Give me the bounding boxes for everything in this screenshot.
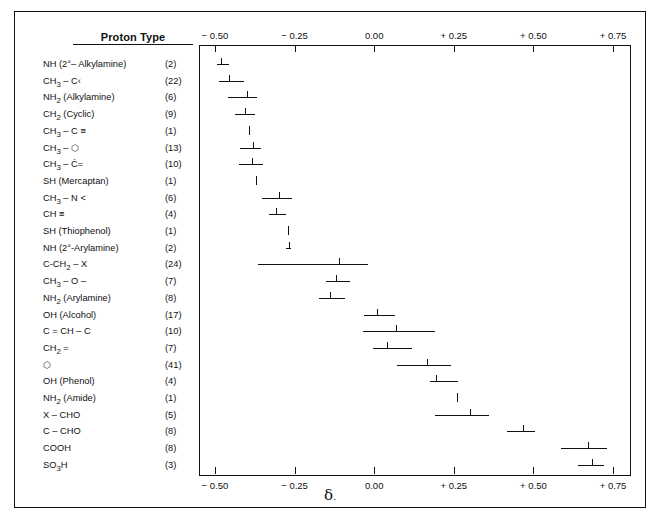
range-bar [364, 315, 395, 316]
range-bar [578, 465, 603, 466]
center-tick [470, 409, 471, 416]
center-tick [276, 208, 277, 215]
chart-inner: Proton Type − 0.50− 0.250.00+ 0.25+ 0.50… [15, 12, 645, 507]
axis-tick-top [295, 45, 296, 52]
center-tick [249, 126, 250, 135]
center-tick [588, 442, 589, 449]
range-bar [326, 281, 350, 282]
chart-frame: Proton Type − 0.50− 0.250.00+ 0.25+ 0.50… [14, 11, 646, 508]
axis-tick-label-top: 0.00 [365, 30, 384, 41]
chart-page: Proton Type − 0.50− 0.250.00+ 0.25+ 0.50… [0, 0, 658, 517]
range-bar [435, 415, 489, 416]
center-tick [336, 275, 337, 282]
center-tick [457, 393, 458, 402]
axis-tick-label-top: + 0.75 [600, 30, 627, 41]
delta-suffix: . [333, 491, 336, 502]
range-bar [319, 298, 344, 299]
center-tick [221, 58, 222, 65]
page-title: Proton Type [73, 31, 193, 45]
range-bar [217, 64, 230, 65]
center-tick [245, 108, 246, 115]
axis-tick-top [613, 45, 614, 52]
center-tick [339, 258, 340, 265]
axis-tick-top [374, 45, 375, 52]
axis-tick-top [533, 45, 534, 52]
range-bar [258, 264, 369, 265]
range-bar [430, 381, 458, 382]
delta-symbol: δ [324, 486, 333, 504]
axis-tick-label-top: + 0.25 [440, 30, 467, 41]
center-tick [253, 142, 254, 149]
range-bar [269, 214, 286, 215]
center-tick [289, 242, 290, 249]
center-tick [427, 359, 428, 366]
axis-title: δ. [15, 486, 645, 504]
range-bar [397, 365, 451, 366]
axis-tick-top [454, 45, 455, 52]
center-tick [288, 226, 289, 235]
row-count: (3) [165, 456, 193, 475]
center-tick [256, 176, 257, 185]
center-tick [247, 91, 248, 98]
center-tick [377, 309, 378, 316]
range-bar [507, 431, 535, 432]
axis-tick-label-top: − 0.25 [281, 30, 308, 41]
axis-tick-label-top: + 0.50 [520, 30, 547, 41]
center-tick [330, 292, 331, 299]
center-tick [279, 192, 280, 199]
range-bar [219, 81, 244, 82]
range-bar [373, 348, 412, 349]
center-tick [396, 325, 397, 332]
range-bar [240, 148, 261, 149]
center-tick [387, 342, 388, 349]
center-tick [436, 375, 437, 382]
range-bar [228, 97, 257, 98]
center-tick [229, 75, 230, 82]
range-bar [262, 198, 292, 199]
range-bar [561, 448, 607, 449]
center-tick [592, 459, 593, 466]
center-tick [252, 158, 253, 165]
center-tick [523, 425, 524, 432]
chart-row: SO3H(3) [15, 456, 645, 475]
axis-tick-top [215, 45, 216, 52]
row-label: SO3H [43, 456, 163, 478]
range-bar [363, 331, 435, 332]
axis-tick-label-top: − 0.50 [202, 30, 229, 41]
